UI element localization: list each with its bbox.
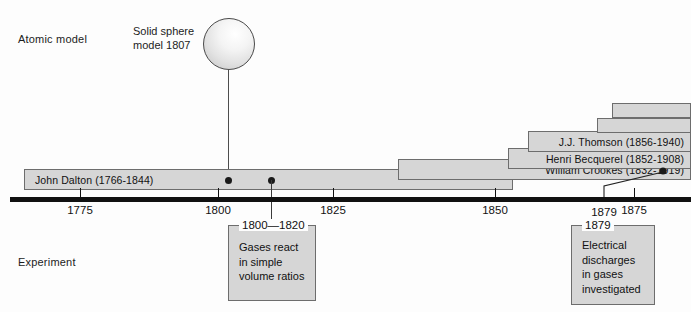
timeline-axis — [10, 197, 691, 202]
note-gases-react-title: 1800—1820 — [239, 219, 308, 231]
axis-tick-label-1825: 1825 — [320, 204, 346, 216]
axis-tick-label-1879: 1879 — [591, 206, 617, 218]
bar-john-dalton-label: John Dalton (1766-1844) — [25, 174, 153, 186]
axis-tick-label-1775: 1775 — [67, 204, 93, 216]
axis-tick-1875 — [634, 188, 635, 197]
solid-sphere-caption: Solid sphere model 1807 — [133, 24, 194, 52]
timeline-diagram: Atomic model Experiment Solid sphere mod… — [0, 0, 691, 312]
axis-tick-1850 — [495, 188, 496, 197]
bar-jj-thomson-label: J.J. Thomson (1856-1940) — [559, 136, 690, 148]
axis-tick-1800 — [218, 188, 219, 197]
solid-sphere-icon — [203, 18, 255, 70]
axis-tick-1825 — [333, 188, 334, 197]
note-electrical-discharges-title: 1879 — [582, 219, 614, 231]
bar-unlabeled-lower — [597, 118, 691, 133]
solid-sphere-leader-line — [228, 69, 229, 181]
row-label-experiment: Experiment — [18, 256, 76, 268]
note-gases-react: 1800—1820 Gases react in simple volume r… — [228, 225, 316, 301]
row-label-atomic-model: Atomic model — [18, 33, 87, 45]
bar-henri-becquerel-label: Henri Becquerel (1852-1908) — [546, 153, 690, 165]
axis-tick-1775 — [80, 188, 81, 197]
axis-tick-label-1850: 1850 — [482, 204, 508, 216]
axis-tick-label-1875: 1875 — [621, 204, 647, 216]
marker-dot-1807 — [225, 177, 232, 184]
note-gases-react-body: Gases react in simple volume ratios — [229, 226, 315, 284]
bar-jj-thomson: J.J. Thomson (1856-1940) — [528, 131, 691, 152]
note-electrical-discharges-body: Electrical discharges in gases investiga… — [572, 226, 654, 296]
note-electrical-discharges: 1879 Electrical discharges in gases inve… — [571, 225, 655, 305]
bar-unlabeled-upper — [612, 103, 691, 118]
solid-sphere-caption-line2: model 1807 — [133, 38, 194, 52]
axis-tick-label-1800: 1800 — [205, 204, 231, 216]
solid-sphere-caption-line1: Solid sphere — [133, 24, 194, 38]
